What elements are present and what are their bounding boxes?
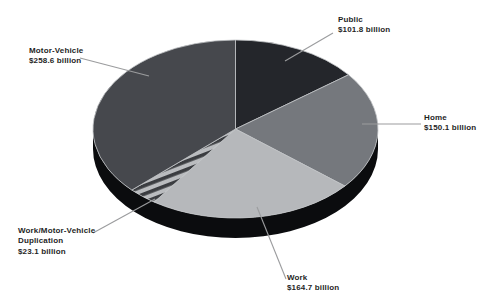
- label-line: Work: [287, 273, 339, 283]
- label-line: $150.1 billion: [424, 123, 476, 133]
- label-line: Home: [424, 113, 476, 123]
- label-line: $101.8 billion: [338, 25, 390, 35]
- label-line: Duplication: [18, 236, 95, 246]
- label-line: Work/Motor-Vehicle: [18, 226, 95, 236]
- label-public: Public$101.8 billion: [338, 15, 390, 36]
- label-home: Home$150.1 billion: [424, 113, 476, 134]
- label-line: Public: [338, 15, 390, 25]
- pie-chart-injury-costs: Public$101.8 billionHome$150.1 billionMo…: [0, 0, 492, 307]
- label-line: $164.7 billion: [287, 283, 339, 293]
- label-line: $23.1 billion: [18, 247, 95, 257]
- label-work-motor-vehicle-duplication: Work/Motor-VehicleDuplication$23.1 billi…: [18, 226, 95, 257]
- label-work: Work$164.7 billion: [287, 273, 339, 294]
- label-motor-vehicle: Motor-Vehicle$258.6 billion: [29, 46, 83, 67]
- label-line: $258.6 billion: [29, 56, 83, 66]
- label-line: Motor-Vehicle: [29, 46, 83, 56]
